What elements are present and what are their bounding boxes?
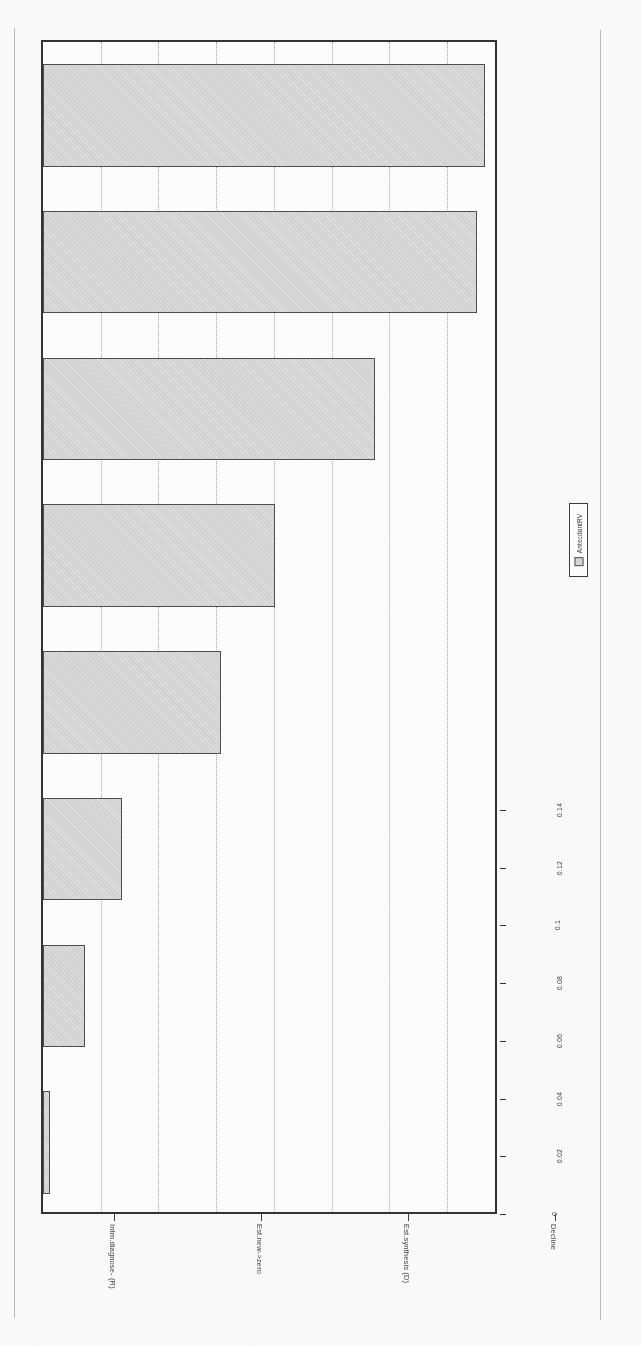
category-label: Decline	[549, 1224, 558, 1250]
value-axis: 00.020.040.060.080.10.120.14	[500, 40, 570, 1214]
legend-label: AntecdantRV	[575, 514, 582, 553]
legend-swatch-antecdantrv	[574, 557, 583, 566]
axis-tick-mark	[500, 1156, 506, 1157]
page-margin-rule-left	[14, 28, 15, 1318]
bar	[43, 64, 485, 167]
legend-box: AntecdantRV	[569, 503, 588, 577]
bar	[43, 1091, 50, 1194]
category-label: Intm.diagnose- (R)	[108, 1224, 117, 1289]
axis-tick-label: 0.1	[554, 920, 561, 930]
category-tick-mark	[555, 1214, 556, 1221]
bar	[43, 358, 375, 461]
axis-tick-mark	[500, 1099, 506, 1100]
axis-tick-mark	[500, 983, 506, 984]
page-margin-rule-right	[600, 30, 601, 1320]
bar	[43, 651, 221, 754]
axis-tick-mark	[500, 925, 506, 926]
scanned-page: Proximity plot 00.020.040.060.080.10.120…	[0, 0, 641, 1346]
bar	[43, 211, 477, 314]
axis-tick-mark	[500, 868, 506, 869]
axis-tick-mark	[500, 1041, 506, 1042]
category-label: Est.synthesis (D)	[402, 1224, 411, 1283]
axis-tick-label: 0.06	[556, 1034, 563, 1048]
category-axis: Intm.diagnose- (R)Est.new->zeroEst.synth…	[41, 1214, 497, 1324]
category-tick-mark	[114, 1214, 115, 1221]
bar	[43, 504, 275, 607]
axis-tick-label: 0.08	[556, 976, 563, 990]
bar	[43, 945, 85, 1048]
category-tick-mark	[261, 1214, 262, 1221]
category-tick-mark	[408, 1214, 409, 1221]
axis-tick-label: 0.04	[556, 1091, 563, 1105]
axis-tick-label: 0.02	[556, 1149, 563, 1163]
axis-tick-label: 0.12	[556, 860, 563, 874]
plot-area	[41, 40, 497, 1214]
bar	[43, 798, 122, 901]
axis-tick-label: 0.14	[556, 803, 563, 817]
category-label: Est.new->zero	[255, 1224, 264, 1274]
axis-tick-mark	[500, 1214, 506, 1215]
axis-tick-mark	[500, 810, 506, 811]
